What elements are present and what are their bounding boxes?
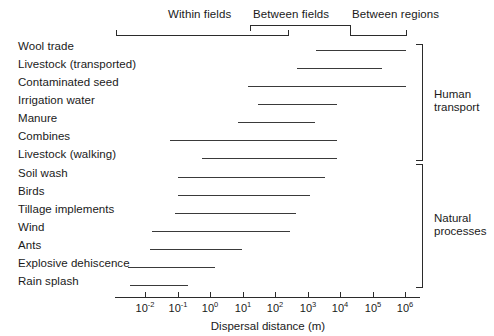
- x-axis-tick-label-5: 102: [267, 302, 283, 314]
- x-axis-tick-label-9: 106: [397, 302, 413, 314]
- scale-bracket-between-regions-cap-left: [350, 30, 351, 36]
- category-label-livestock-transported: Livestock (transported): [18, 58, 136, 70]
- category-label-explosive-dehiscence: Explosive dehiscence: [18, 257, 130, 269]
- scale-bracket-within-fields-cap-left: [116, 30, 117, 36]
- category-label-manure: Manure: [18, 112, 57, 124]
- x-axis-tick-8: [373, 292, 374, 298]
- category-label-tillage-implements: Tillage implements: [18, 203, 114, 215]
- scale-label-between-fields: Between fields: [253, 8, 329, 20]
- group-label-natural-processes-line2: processes: [434, 225, 486, 238]
- category-label-rain-splash: Rain splash: [18, 275, 79, 287]
- x-axis-tick-exponent-9: 6: [409, 300, 413, 309]
- category-label-birds: Birds: [18, 185, 44, 197]
- x-axis-tick-exponent-8: 5: [377, 300, 381, 309]
- category-label-ants: Ants: [18, 239, 41, 251]
- category-label-irrigation-water: Irrigation water: [18, 94, 95, 106]
- range-bar-combines: [170, 140, 337, 141]
- x-axis-tick-exponent-6: 3: [312, 300, 316, 309]
- scale-bracket-between-fields-cap-left: [250, 25, 251, 31]
- scale-bracket-within-fields-cap-right: [288, 30, 289, 36]
- x-axis-tick-exponent-5: 2: [279, 300, 283, 309]
- x-axis-tick-exponent-2: -1: [181, 300, 188, 309]
- x-axis-tick-2: [178, 292, 179, 298]
- x-axis-tick-9: [405, 292, 406, 298]
- x-axis-tick-label-1: 10-2: [136, 302, 155, 314]
- category-label-wind: Wind: [18, 221, 44, 233]
- group-bracket-human-transport-spine: [422, 44, 423, 160]
- range-bar-contaminated-seed: [248, 86, 406, 87]
- group-bracket-natural-processes-cap-top: [416, 164, 423, 165]
- range-bar-explosive-dehiscence: [128, 267, 215, 268]
- group-label-human-transport-line2: transport: [434, 101, 479, 114]
- x-axis-tick-1: [145, 292, 146, 298]
- x-axis-line: [115, 297, 420, 298]
- category-label-soil-wash: Soil wash: [18, 167, 68, 179]
- scale-bracket-between-regions-line: [350, 35, 406, 36]
- x-axis-tick-label-6: 103: [300, 302, 316, 314]
- scale-bracket-between-fields-line: [250, 25, 350, 26]
- range-bar-rain-splash: [130, 285, 188, 286]
- group-bracket-natural-processes-cap-bottom: [416, 287, 423, 288]
- scale-label-within-fields: Within fields: [168, 8, 231, 20]
- range-bar-manure: [238, 122, 315, 123]
- category-label-combines: Combines: [18, 130, 70, 142]
- x-axis-tick-label-8: 105: [365, 302, 381, 314]
- group-bracket-human-transport-cap-bottom: [416, 160, 423, 161]
- x-axis-tick-5: [275, 292, 276, 298]
- x-axis-tick-exponent-4: 1: [247, 300, 251, 309]
- range-bar-wool-trade: [316, 50, 406, 51]
- x-axis-tick-7: [340, 292, 341, 298]
- group-label-human-transport-line1: Human: [434, 88, 479, 101]
- group-bracket-natural-processes-spine: [422, 164, 423, 287]
- category-label-wool-trade: Wool trade: [18, 40, 74, 52]
- group-label-natural-processes-line1: Natural: [434, 212, 486, 225]
- range-bar-tillage-implements: [175, 213, 296, 214]
- group-label-human-transport: Human transport: [434, 88, 479, 114]
- range-bar-ants: [150, 249, 242, 250]
- x-axis-tick-exponent-1: -2: [148, 300, 155, 309]
- range-bar-irrigation-water: [258, 104, 337, 105]
- x-axis-tick-3: [210, 292, 211, 298]
- range-bar-livestock-transported: [297, 68, 382, 69]
- scale-bracket-within-fields-line: [116, 35, 288, 36]
- x-axis-tick-exponent-7: 4: [344, 300, 348, 309]
- scale-bracket-between-regions-cap-right: [406, 30, 407, 36]
- x-axis-tick-label-7: 104: [332, 302, 348, 314]
- x-axis-tick-label-4: 101: [235, 302, 251, 314]
- range-bar-wind: [152, 231, 290, 232]
- x-axis-tick-4: [243, 292, 244, 298]
- dispersal-distance-chart: Within fields Between fields Between reg…: [0, 0, 494, 336]
- category-label-livestock-walking: Livestock (walking): [18, 148, 116, 160]
- x-axis-title: Dispersal distance (m): [211, 320, 325, 332]
- x-axis-tick-label-2: 10-1: [169, 302, 188, 314]
- x-axis-tick-6: [308, 292, 309, 298]
- range-bar-soil-wash: [178, 177, 325, 178]
- x-axis-tick-exponent-3: 0: [214, 300, 218, 309]
- range-bar-birds: [178, 195, 310, 196]
- category-label-contaminated-seed: Contaminated seed: [18, 76, 119, 88]
- scale-label-between-regions: Between regions: [352, 8, 439, 20]
- group-bracket-human-transport-cap-top: [416, 44, 423, 45]
- x-axis-tick-label-3: 100: [202, 302, 218, 314]
- group-label-natural-processes: Natural processes: [434, 212, 486, 238]
- range-bar-livestock-walking: [202, 158, 337, 159]
